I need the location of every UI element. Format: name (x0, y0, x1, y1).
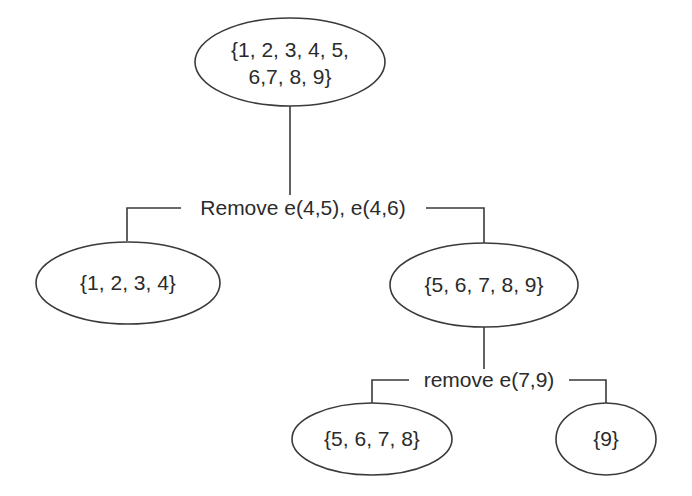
node-root-label-line2: 6,7, 8, 9} (249, 65, 332, 88)
node-left-label: {1, 2, 3, 4} (80, 271, 176, 294)
edge-split2-left (372, 380, 409, 403)
node-root-label-line1: {1, 2, 3, 4, 5, (231, 38, 349, 61)
diagram-canvas: {1, 2, 3, 4, 5, 6,7, 8, 9} {1, 2, 3, 4} … (0, 0, 692, 496)
node-right-right-label: {9} (593, 427, 619, 450)
split2-label: remove e(7,9) (424, 368, 555, 391)
split1-label: Remove e(4,5), e(4,6) (200, 196, 405, 219)
edge-split2-right (569, 380, 606, 403)
edge-split1-right (426, 208, 484, 243)
tree-diagram: {1, 2, 3, 4, 5, 6,7, 8, 9} {1, 2, 3, 4} … (0, 0, 692, 496)
node-right-label: {5, 6, 7, 8, 9} (424, 273, 543, 296)
node-right-left-label: {5, 6, 7, 8} (324, 427, 420, 450)
node-root-ellipse (195, 18, 385, 106)
edge-split1-left (127, 208, 181, 241)
